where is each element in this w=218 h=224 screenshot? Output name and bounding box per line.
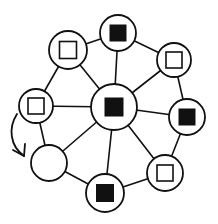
- filled-square-icon: [97, 185, 114, 202]
- curved-arrow-icon: [12, 114, 25, 156]
- node-bottom: [86, 174, 124, 212]
- node-right: [169, 99, 205, 135]
- node-top-left: [49, 31, 87, 69]
- filled-square-icon: [105, 98, 123, 116]
- hollow-square-icon: [60, 42, 77, 59]
- node-circle: [31, 145, 67, 181]
- node-center: [91, 84, 137, 130]
- hollow-square-icon: [166, 52, 182, 68]
- hollow-square-icon: [157, 165, 173, 181]
- node-bottom-right: [147, 155, 183, 191]
- hollow-square-icon: [28, 98, 44, 114]
- node-top: [100, 15, 136, 51]
- network-diagram: [0, 0, 218, 224]
- node-bottom-left: [31, 145, 67, 181]
- filled-square-icon: [110, 25, 126, 41]
- nodes-group: [19, 15, 205, 212]
- node-left: [19, 89, 53, 123]
- filled-square-icon: [179, 109, 195, 125]
- node-top-right: [157, 43, 191, 77]
